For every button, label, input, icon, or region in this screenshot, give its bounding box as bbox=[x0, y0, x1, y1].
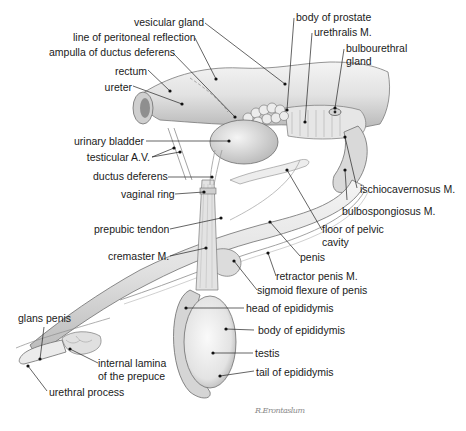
leader-dot bbox=[227, 139, 230, 142]
label-urinary-bladder: urinary bladder bbox=[74, 135, 142, 148]
label-line-of-peritoneal-reflection: line of peritoneal reflection bbox=[73, 31, 194, 44]
leader-dot bbox=[285, 108, 288, 111]
label-ampulla-of-ductus-deferens: ampulla of ductus deferens bbox=[49, 46, 171, 59]
leader-dot bbox=[26, 364, 29, 367]
leader-dot bbox=[204, 246, 207, 249]
label-vesicular-gland: vesicular gland bbox=[134, 16, 204, 29]
label-urethralis-m: urethralis M. bbox=[314, 26, 372, 39]
label-ischiocavernosus-m: ischiocavernosus M. bbox=[360, 183, 455, 196]
leader-vaginal-ring bbox=[175, 192, 204, 194]
label-internal-lamina-of-the-prepuce: internal lamina of the prepuce bbox=[98, 357, 166, 383]
leader-dot bbox=[202, 190, 205, 193]
artist-signature: R.Erontaslum bbox=[255, 406, 305, 415]
leader-dot bbox=[268, 220, 271, 223]
anatomy-diagram: vesicular glandline of peritoneal reflec… bbox=[0, 0, 466, 431]
leader-dot bbox=[218, 374, 221, 377]
leader-dot bbox=[172, 146, 175, 149]
label-vaginal-ring: vaginal ring bbox=[121, 188, 173, 201]
leader-testicular-av bbox=[152, 148, 174, 157]
leader-dot bbox=[219, 216, 222, 219]
label-floor-of-pelvic-cavity: floor of pelvic cavity bbox=[322, 223, 384, 249]
leader-dot bbox=[283, 82, 286, 85]
leader-dot bbox=[210, 175, 213, 178]
label-penis: penis bbox=[300, 251, 325, 264]
label-tail-of-epididymis: tail of epididymis bbox=[256, 366, 334, 379]
leader-sigmoid-flexure-of-penis bbox=[234, 261, 257, 290]
label-sigmoid-flexure-of-penis: sigmoid flexure of penis bbox=[257, 284, 367, 297]
leader-dot bbox=[333, 106, 336, 109]
leader-dot bbox=[180, 102, 183, 105]
label-ureter: ureter bbox=[104, 81, 132, 94]
label-cremaster-m: cremaster M. bbox=[108, 250, 167, 263]
label-bulbourethral-gland: bulbourethral gland bbox=[346, 42, 407, 68]
testis-shape bbox=[174, 290, 237, 398]
label-body-of-prostate: body of prostate bbox=[296, 11, 371, 24]
label-testicular-av: testicular A.V. bbox=[86, 151, 150, 164]
leader-dot bbox=[285, 168, 288, 171]
label-prepubic-tendon: prepubic tendon bbox=[94, 223, 167, 236]
label-bulbospongiosus-m: bulbospongiosus M. bbox=[342, 205, 435, 218]
leader-urethral-process bbox=[28, 366, 47, 391]
leader-dot bbox=[233, 115, 236, 118]
leader-dot bbox=[266, 251, 269, 254]
leader-dot bbox=[343, 135, 346, 138]
label-body-of-epididymis: body of epididymis bbox=[258, 324, 345, 337]
label-ductus-deferens: ductus deferens bbox=[93, 170, 165, 183]
label-urethral-process: urethral process bbox=[49, 386, 124, 399]
leader-dot bbox=[184, 306, 187, 309]
leader-dot bbox=[303, 120, 306, 123]
label-rectum: rectum bbox=[114, 65, 147, 78]
leader-dot bbox=[211, 351, 214, 354]
leader-dot bbox=[224, 327, 227, 330]
leader-dot bbox=[214, 77, 217, 80]
leader-dot bbox=[168, 89, 171, 92]
leader-dot bbox=[38, 357, 41, 360]
label-testis: testis bbox=[255, 347, 280, 360]
leader-retractor-penis-m bbox=[268, 253, 276, 276]
label-retractor-penis-m: retractor penis M. bbox=[276, 270, 358, 283]
label-head-of-epididymis: head of epididymis bbox=[246, 302, 334, 315]
leader-dot bbox=[343, 168, 346, 171]
label-glans-penis: glans penis bbox=[18, 312, 71, 325]
leader-dot bbox=[178, 150, 181, 153]
leader-dot bbox=[232, 259, 235, 262]
leader-dot bbox=[68, 347, 71, 350]
leader-testicular-av-2 bbox=[152, 152, 180, 157]
